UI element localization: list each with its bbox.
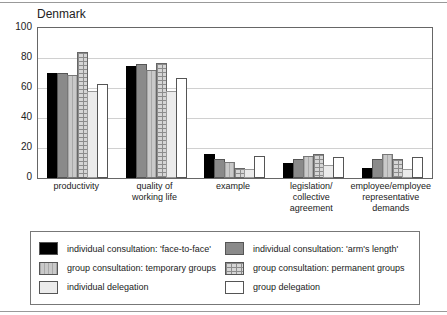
y-tick-label-60: 60 <box>2 81 32 92</box>
chart-title: Denmark <box>37 7 86 21</box>
y-tick-label-40: 40 <box>2 111 32 122</box>
x-category-label-5: employee/employeerepresentativedemands <box>350 181 431 213</box>
legend-item-1: individual consultation: 'face-to-face' <box>39 242 225 255</box>
bar-group-5 <box>353 28 432 178</box>
y-tick-label-0: 0 <box>2 171 32 182</box>
x-category-label-2: quality ofworking life <box>115 181 193 213</box>
x-category-label-4: legislation/collective agreement <box>272 181 350 213</box>
bar <box>97 84 108 179</box>
bar <box>412 157 423 178</box>
bar <box>176 78 187 179</box>
legend-label: individual delegation <box>67 282 149 292</box>
legend: individual consultation: 'face-to-face'i… <box>30 231 420 305</box>
plot-area <box>37 27 433 179</box>
x-axis-labels: productivityquality ofworking lifeexampl… <box>37 181 431 213</box>
figure: Denmark 100806040200 productivityquality… <box>0 0 447 315</box>
legend-item-5: individual delegation <box>39 281 225 294</box>
bar-group-4 <box>274 28 353 178</box>
legend-label: individual consultation: 'arm's length' <box>253 244 398 254</box>
legend-label: group delegation <box>253 282 320 292</box>
top-rule <box>0 2 447 3</box>
bar-groups <box>38 28 432 178</box>
bar-group-2 <box>117 28 196 178</box>
bar <box>254 156 265 179</box>
x-category-label-1: productivity <box>37 181 115 213</box>
legend-item-3: group consultation: temporary groups <box>39 262 225 275</box>
legend-label: group consultation: permanent groups <box>253 263 405 273</box>
bar-group-1 <box>38 28 117 178</box>
bar-group-3 <box>196 28 275 178</box>
legend-swatch-icon <box>225 242 244 255</box>
legend-swatch-icon <box>225 262 244 275</box>
legend-item-4: group consultation: permanent groups <box>225 262 411 275</box>
y-tick-label-20: 20 <box>2 141 32 152</box>
y-tick-label-80: 80 <box>2 51 32 62</box>
bar <box>333 157 344 178</box>
legend-swatch-icon <box>225 281 244 294</box>
legend-label: group consultation: temporary groups <box>67 263 216 273</box>
legend-label: individual consultation: 'face-to-face' <box>67 244 211 254</box>
legend-swatch-icon <box>39 242 58 255</box>
legend-swatch-icon <box>39 281 58 294</box>
legend-swatch-icon <box>39 262 58 275</box>
legend-item-6: group delegation <box>225 281 411 294</box>
legend-item-2: individual consultation: 'arm's length' <box>225 242 411 255</box>
bottom-rule <box>0 311 447 312</box>
y-tick-label-100: 100 <box>2 21 32 32</box>
x-category-label-3: example <box>194 181 272 213</box>
